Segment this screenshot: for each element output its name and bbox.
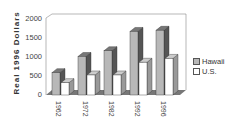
legend-item-hawaii: Hawaii <box>193 56 225 66</box>
x-tick-1996: 1996 <box>160 101 167 117</box>
bar-hawaii-1992 <box>130 31 138 95</box>
legend-item-us: U.S. <box>193 66 225 76</box>
bar-us-1962 <box>61 83 69 95</box>
bar-us-1996 <box>165 58 173 95</box>
x-tick-1982: 1982 <box>108 101 115 117</box>
x-tick-1992: 1992 <box>134 101 141 117</box>
x-tick-1962: 1962 <box>55 101 62 117</box>
legend-swatch-us <box>193 68 200 75</box>
x-tick-1972: 1972 <box>82 101 89 117</box>
bar-hawaii-1972 <box>78 57 86 96</box>
legend-label-hawaii: Hawaii <box>202 57 225 66</box>
bar-hawaii-1982 <box>104 51 112 95</box>
legend: Hawaii U.S. <box>193 56 225 76</box>
bar-us-1992 <box>139 62 147 95</box>
bar-hawaii-1962 <box>52 73 60 95</box>
bar-us-1996 <box>173 54 178 95</box>
legend-swatch-hawaii <box>193 58 200 65</box>
legend-label-us: U.S. <box>202 67 217 76</box>
bar-chart: Real 1996 Dollars 2000 1500 1000 500 0 1… <box>0 0 230 126</box>
bar-us-1972 <box>87 75 95 95</box>
bar-us-1982 <box>113 75 121 95</box>
bar-us-1992 <box>147 58 152 95</box>
bar-hawaii-1996 <box>156 30 164 95</box>
